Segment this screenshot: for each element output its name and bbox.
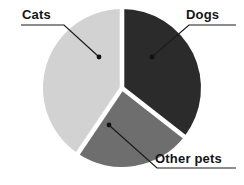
pie-label-other-pets: Other pets — [155, 152, 222, 166]
pie-label-dogs: Dogs — [186, 8, 219, 22]
leader-dot-other-pets — [107, 123, 112, 128]
leader-dot-dogs — [150, 55, 155, 60]
pie-label-cats: Cats — [22, 8, 51, 22]
leader-dot-cats — [97, 55, 102, 60]
pie-chart-figure: Cats Dogs Other pets — [0, 0, 244, 185]
